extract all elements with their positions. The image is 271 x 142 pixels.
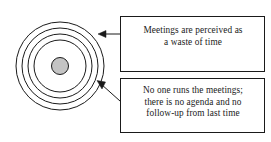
arrow-to-outer-ring-head (98, 31, 106, 38)
diagram-canvas: Meetings are perceived as a waste of tim… (0, 0, 271, 142)
arrow-to-middle-ring-group (97, 81, 120, 102)
callout-1-line-2: a waste of time (164, 37, 222, 49)
callout-2-line-3: follow-up from last time (146, 108, 239, 120)
arrow-to-outer-ring-group (98, 31, 120, 38)
callout-1-line-1: Meetings are perceived as (143, 25, 242, 37)
callout-2-line-1: No one runs the meetings; (143, 85, 243, 97)
core-circle (52, 58, 69, 75)
callout-box-no-agenda-text: No one runs the meetings; there is no ag… (121, 79, 265, 133)
arrow-to-middle-ring-shaft (101, 84, 120, 101)
callout-box-perception-text: Meetings are perceived as a waste of tim… (121, 17, 265, 72)
concentric-rings-group (16, 22, 104, 110)
callout-2-line-2: there is no agenda and no (144, 97, 241, 109)
